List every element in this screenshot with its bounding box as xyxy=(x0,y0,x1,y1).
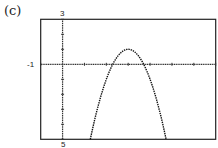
window-frame xyxy=(41,19,216,139)
graph-window xyxy=(0,0,218,148)
